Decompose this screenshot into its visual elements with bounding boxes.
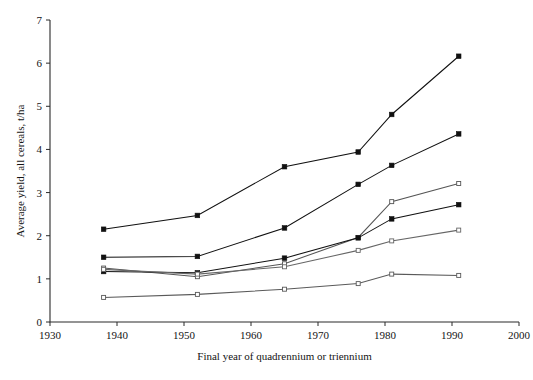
y-axis-tick-label: 2 (37, 230, 43, 242)
data-point-marker (390, 239, 394, 243)
series-5-group (102, 228, 461, 276)
data-point-marker (457, 228, 461, 232)
data-point-marker (283, 287, 287, 291)
series-6-group (102, 272, 461, 299)
data-point-marker (456, 132, 461, 137)
y-axis-tick-label: 1 (37, 273, 43, 285)
data-point-marker (283, 265, 287, 269)
data-point-marker (356, 150, 361, 155)
data-point-marker (389, 217, 394, 222)
data-point-marker (101, 227, 106, 232)
x-axis-tick-label: 1960 (240, 329, 263, 341)
y-axis-tick-label: 5 (37, 100, 43, 112)
data-point-marker (282, 226, 287, 231)
x-axis-tick-label: 1940 (106, 329, 129, 341)
data-point-marker (456, 54, 461, 59)
series-line (104, 230, 459, 274)
series-line (104, 184, 459, 277)
x-axis-tick-label: 1930 (39, 329, 62, 341)
y-axis-tick-label: 6 (37, 57, 43, 69)
series-line (104, 56, 459, 229)
data-point-marker (195, 254, 200, 259)
x-axis-tick-label: 1990 (441, 329, 464, 341)
series-3-group (102, 182, 461, 279)
data-point-marker (356, 282, 360, 286)
x-axis-tick-label: 1980 (374, 329, 397, 341)
y-axis-tick-label: 7 (37, 14, 43, 26)
data-point-marker (356, 236, 361, 241)
data-point-marker (195, 272, 199, 276)
data-point-marker (101, 255, 106, 260)
y-axis-title: Average yield, all cereals, t/ha (14, 104, 26, 237)
data-point-marker (457, 182, 461, 186)
series-line (104, 274, 459, 297)
data-point-marker (102, 267, 106, 271)
y-axis-tick-label: 3 (37, 187, 43, 199)
data-point-marker (457, 273, 461, 277)
data-point-marker (389, 112, 394, 117)
x-axis-tick-label: 1970 (307, 329, 330, 341)
data-point-marker (390, 272, 394, 276)
x-axis-title: Final year of quadrennium or triennium (197, 350, 372, 362)
data-point-marker (282, 256, 287, 261)
data-point-marker (195, 292, 199, 296)
y-axis-tick-label: 0 (37, 316, 43, 328)
data-point-marker (456, 202, 461, 207)
line-chart-plot: 0123456719301940195019601970198019902000… (0, 0, 533, 380)
data-point-marker (195, 213, 200, 218)
x-axis-tick-label: 1950 (173, 329, 196, 341)
x-axis-tick-label: 2000 (508, 329, 531, 341)
y-axis-tick-label: 4 (37, 143, 43, 155)
data-point-marker (282, 164, 287, 169)
data-point-marker (390, 200, 394, 204)
data-point-marker (356, 248, 360, 252)
data-point-marker (102, 295, 106, 299)
data-point-marker (389, 163, 394, 168)
series-2-group (101, 132, 461, 260)
series-1-group (101, 54, 461, 232)
data-point-marker (356, 182, 361, 187)
chart-figure: 0123456719301940195019601970198019902000… (0, 0, 533, 380)
